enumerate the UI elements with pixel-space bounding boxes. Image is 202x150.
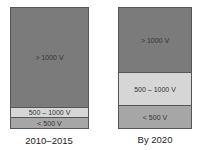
segment-label: 500 – 1000 V	[134, 86, 176, 93]
segment-label: > 1000 V	[141, 37, 169, 44]
segment-label: < 500 V	[37, 120, 61, 127]
bar-by-2020: > 1000 V 500 – 1000 V < 500 V	[118, 7, 192, 129]
segment-over-1000v: > 1000 V	[119, 8, 191, 72]
segment-500-1000v: 500 – 1000 V	[11, 107, 88, 117]
category-label-2010-2015: 2010–2015	[4, 135, 94, 146]
category-label-by-2020: By 2020	[110, 134, 200, 145]
segment-label: 500 – 1000 V	[29, 109, 71, 116]
segment-label: > 1000 V	[35, 54, 63, 61]
bar-2010-2015: > 1000 V 500 – 1000 V < 500 V	[10, 7, 89, 129]
segment-label: < 500 V	[143, 114, 167, 121]
segment-under-500v: < 500 V	[11, 117, 88, 128]
segment-over-1000v: > 1000 V	[11, 8, 88, 107]
segment-under-500v: < 500 V	[119, 105, 191, 128]
segment-500-1000v: 500 – 1000 V	[119, 72, 191, 105]
